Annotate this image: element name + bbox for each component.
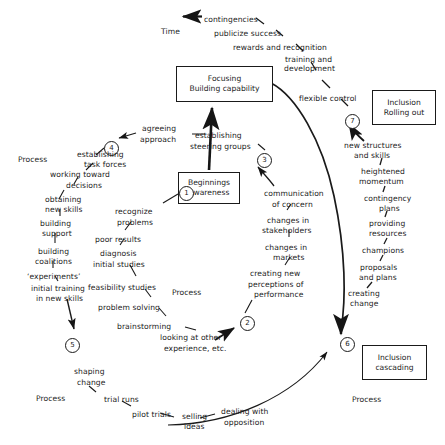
- box-beginnings-line1: Beginnings: [188, 178, 230, 188]
- label-coalitions: coalitions: [35, 257, 72, 266]
- section-label-process-left: Process: [18, 155, 47, 164]
- label-markets: markets: [273, 253, 304, 262]
- label-establishing-task: establishing: [77, 150, 124, 159]
- label-experience-etc: experience, etc.: [164, 344, 226, 353]
- label-looking-at-other: looking at other: [160, 333, 222, 342]
- box-inclusion-rolling-out-line2: Rolling out: [384, 108, 424, 118]
- label-agreeing: agreeing: [142, 124, 176, 133]
- section-label-process-bottom-left: Process: [36, 394, 65, 403]
- label-problems: problems: [117, 218, 153, 227]
- box-focusing[interactable]: Focusing Building capability: [176, 66, 273, 102]
- box-beginnings-line2: Awareness: [189, 188, 230, 198]
- label-momentum: momentum: [359, 177, 404, 186]
- label-contingencies: contingencies: [204, 15, 258, 24]
- diagram-canvas: Focusing Building capability Beginnings …: [0, 0, 445, 445]
- box-inclusion-cascading-line1: Inclusion: [378, 353, 412, 363]
- label-initial-studies: initial studies: [93, 260, 145, 269]
- label-obtaining: obtaining: [45, 195, 81, 204]
- label-dealing-with: dealing with: [221, 407, 268, 416]
- label-working-toward: working toward: [50, 170, 110, 179]
- label-change-right: change: [350, 299, 378, 308]
- label-shaping: shaping: [74, 367, 105, 376]
- label-experiments: ‘experiments’: [27, 272, 80, 281]
- label-publicize-success: publicize success: [214, 29, 281, 38]
- label-and-plans: and plans: [359, 273, 397, 282]
- label-plans: plans: [379, 204, 400, 213]
- label-resources: resources: [369, 229, 407, 238]
- node-circle-1[interactable]: 1: [179, 186, 194, 201]
- section-label-process-bottom-right: Process: [352, 395, 381, 404]
- label-changes-in-markets: changes in: [265, 243, 307, 252]
- axis-label-time: Time: [161, 27, 180, 36]
- label-development: development: [284, 64, 335, 73]
- label-change-bottom: change: [77, 378, 105, 387]
- label-training-and: training and: [285, 55, 332, 64]
- label-in-new-skills: in new skills: [36, 294, 83, 303]
- box-inclusion-rolling-out-line1: Inclusion: [387, 98, 421, 108]
- label-performance: performance: [254, 290, 304, 299]
- node-circle-2[interactable]: 2: [240, 316, 255, 331]
- label-decisions: decisions: [66, 181, 102, 190]
- node-circle-5[interactable]: 5: [65, 338, 80, 353]
- label-support: support: [42, 229, 72, 238]
- label-heightened: heightened: [361, 167, 405, 176]
- label-steering-groups: steering groups: [190, 142, 251, 151]
- label-initial-training: initial training: [31, 284, 85, 293]
- label-trial-runs: trial runs: [104, 395, 139, 404]
- box-inclusion-rolling-out[interactable]: Inclusion Rolling out: [372, 90, 436, 125]
- label-stakeholders: stakeholders: [262, 226, 312, 235]
- label-poor-results: poor results: [95, 235, 141, 244]
- label-flexible-control: flexible control: [299, 94, 357, 103]
- section-label-process-middle: Process: [172, 288, 201, 297]
- label-pilot-trials: pilot trials: [132, 410, 171, 419]
- label-selling: selling: [182, 412, 207, 421]
- label-of-concern: of concern: [272, 200, 313, 209]
- label-proposals: proposals: [360, 263, 397, 272]
- label-ideas: ideas: [184, 422, 205, 431]
- label-brainstorming: brainstorming: [117, 322, 171, 331]
- label-and-skills: and skills: [354, 151, 390, 160]
- label-contingency: contingency: [364, 194, 411, 203]
- box-focusing-line1: Focusing: [208, 74, 241, 84]
- label-new-structures: new structures: [344, 141, 402, 150]
- node-circle-7[interactable]: 7: [345, 114, 360, 129]
- label-communication: communication: [264, 189, 324, 198]
- label-new-skills: new skills: [45, 205, 83, 214]
- label-building-support: building: [40, 219, 71, 228]
- label-establishing-steering: establishing: [195, 131, 242, 140]
- label-creating-new: creating new: [250, 269, 300, 278]
- label-approach: approach: [140, 135, 176, 144]
- label-providing: providing: [369, 219, 405, 228]
- box-inclusion-cascading-line2: cascading: [375, 363, 413, 373]
- label-building-coalitions: building: [38, 247, 69, 256]
- node-circle-3[interactable]: 3: [257, 153, 272, 168]
- label-task-forces: task forces: [84, 160, 126, 169]
- label-problem-solving: problem solving: [98, 303, 160, 312]
- label-changes-in-stakeholders: changes in: [267, 216, 309, 225]
- label-rewards-and-recognition: rewards and recognition: [233, 43, 327, 52]
- box-focusing-line2: Building capability: [189, 84, 259, 94]
- box-inclusion-cascading[interactable]: Inclusion cascading: [362, 345, 427, 380]
- label-opposition: opposition: [224, 418, 264, 427]
- label-diagnosis: diagnosis: [100, 249, 137, 258]
- label-creating: creating: [348, 289, 380, 298]
- label-perceptions-of: perceptions of: [248, 280, 303, 289]
- node-circle-6[interactable]: 6: [340, 337, 355, 352]
- label-recognize: recognize: [115, 207, 153, 216]
- label-feasibility-studies: feasibility studies: [88, 283, 156, 292]
- label-champions: champions: [362, 246, 404, 255]
